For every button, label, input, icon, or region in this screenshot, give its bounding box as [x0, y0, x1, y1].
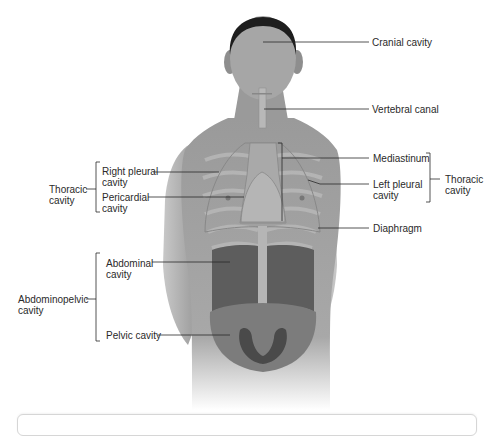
label-abdominopelvic-cavity: Abdominopelvic cavity	[18, 294, 89, 316]
label-left-pleural-cavity: Left pleural cavity	[373, 179, 422, 201]
label-right-pleural-cavity: Right pleural cavity	[102, 166, 158, 188]
label-mediastinum: Mediastinum	[373, 153, 430, 164]
label-diaphragm: Diaphragm	[373, 223, 422, 234]
caption-panel	[17, 414, 477, 436]
label-vertebral-canal: Vertebral canal	[372, 104, 439, 115]
abdominal-cavity-shape	[212, 245, 258, 312]
label-abdominal-cavity: Abdominal cavity	[106, 258, 153, 280]
label-pericardial-cavity: Pericardial cavity	[102, 192, 149, 214]
label-thoracic-cavity-right: Thoracic cavity	[445, 174, 483, 196]
label-cranial-cavity: Cranial cavity	[372, 37, 432, 48]
label-pelvic-cavity: Pelvic cavity	[106, 330, 161, 341]
label-thoracic-cavity-left: Thoracic cavity	[49, 184, 87, 206]
head	[224, 16, 303, 100]
